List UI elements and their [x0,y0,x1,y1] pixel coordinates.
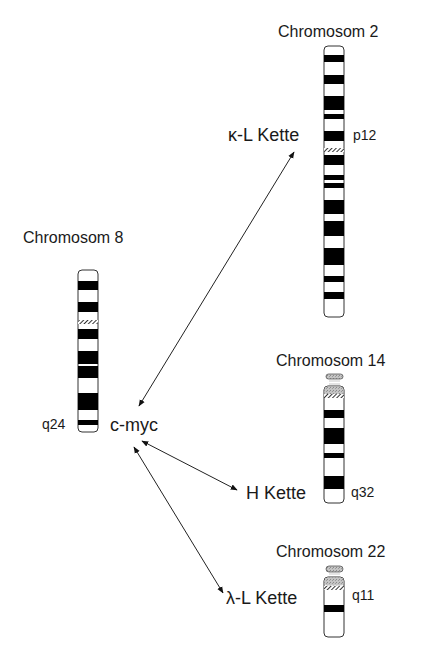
chromosome-14 [324,374,344,503]
arrow-cmyc-lambda [134,447,223,593]
gene-label-cmyc: c-myc [110,416,158,434]
chromosome-8-title: Chromosom 8 [23,230,123,246]
chromosome-22-title: Chromosom 22 [276,544,385,560]
gene-label-lambda: λ-L Kette [226,589,297,607]
chromosome-14-title: Chromosom 14 [276,353,385,369]
chromosome-8 [78,270,98,432]
chromosome-2 [324,46,344,317]
chromosome-2-title: Chromosom 2 [278,24,378,40]
band-label-p12: p12 [353,128,376,142]
chromosome-22 [324,566,344,637]
band-label-q32: q32 [351,485,374,499]
band-label-q24: q24 [42,417,65,431]
gene-label-heavy: H Kette [246,484,306,502]
band-label-q11: q11 [352,588,374,602]
gene-label-kappa: κ-L Kette [228,126,299,144]
arrow-cmyc-kappa [139,152,294,406]
